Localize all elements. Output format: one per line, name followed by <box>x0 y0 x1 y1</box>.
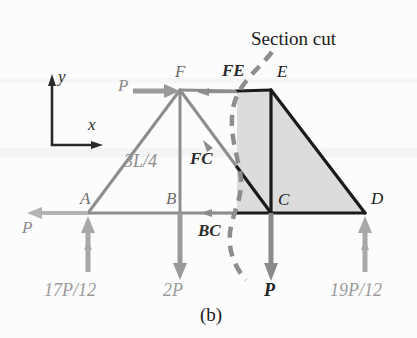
reaction-label-A: 17P/12 <box>44 281 96 299</box>
node-label-D: D <box>371 190 383 207</box>
reaction-A-barb <box>84 240 92 250</box>
section-cut-label: Section cut <box>251 29 336 48</box>
member-force-label-FC: FC <box>190 150 213 167</box>
node-label-B: B <box>166 190 176 207</box>
x-axis-arrowhead <box>91 141 103 149</box>
x-axis-label: x <box>88 116 96 133</box>
load-P-at-F-head <box>164 84 180 98</box>
load-P-at-C-head <box>264 263 278 281</box>
load-label-P-at-A: P <box>22 219 32 236</box>
reaction-D-head <box>358 216 372 233</box>
node-label-F: F <box>175 63 185 80</box>
load-label-P-at-F: P <box>118 77 128 94</box>
force-arrow-BC-head <box>200 209 212 217</box>
dimension-label-3L4: 3L/4 <box>124 152 157 170</box>
node-label-E: E <box>277 63 287 80</box>
figure-caption: (b) <box>200 305 222 324</box>
reaction-label-D: 19P/12 <box>330 281 382 299</box>
node-label-A: A <box>80 190 90 207</box>
truss-members-light <box>88 90 237 213</box>
y-axis-arrowhead <box>48 74 56 86</box>
coordinate-axes <box>48 74 103 149</box>
y-axis-label: y <box>58 68 66 85</box>
reaction-D-barb <box>361 240 369 250</box>
load-label-2P-at-B: 2P <box>163 281 183 299</box>
reaction-A-head <box>81 216 95 233</box>
member-force-label-BC: BC <box>198 222 221 239</box>
load-2P-at-B-head <box>173 263 187 280</box>
member-force-label-FE: FE <box>222 62 245 79</box>
support-reactions <box>81 216 372 272</box>
node-label-C: C <box>278 191 289 208</box>
figure-root: y x A B C D E F 3L/4 FE FC BC P P 17P/12… <box>0 0 417 338</box>
load-label-P-at-C: P <box>264 281 275 299</box>
